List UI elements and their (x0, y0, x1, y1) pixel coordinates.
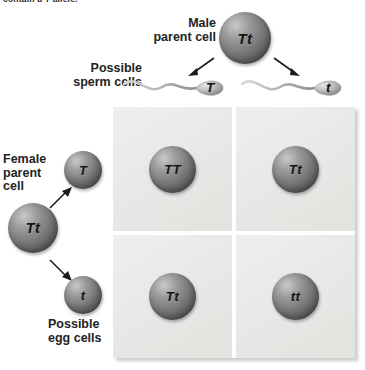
clipped-caption-text: contain a T allele. (3, 0, 183, 4)
offspring-genotype-label: Tt (289, 162, 302, 177)
offspring-cell-TT: TT (149, 146, 196, 193)
possible-egg-cells-label: Possible egg cells (48, 318, 128, 345)
diagram-canvas: contain a T allele. TT Tt Tt tt Male p (0, 0, 365, 370)
male-parent-cell: Tt (219, 12, 271, 64)
offspring-cell-Tt-bottom: Tt (149, 273, 196, 320)
clipped-caption: contain a T allele. (3, 0, 183, 4)
punnett-cell-row0-col1: Tt (236, 107, 355, 231)
punnett-cell-row1-col1: tt (236, 235, 355, 358)
male-parent-genotype-label: Tt (238, 30, 253, 47)
sperm-cell-t: t (240, 70, 348, 106)
offspring-cell-Tt-top: Tt (272, 146, 319, 193)
egg-allele-label: T (79, 163, 87, 178)
egg-cell-t: t (64, 276, 102, 314)
arrow-female-to-egg-T (48, 186, 74, 214)
female-parent-genotype-label: Tt (26, 220, 40, 236)
sperm-allele-label: T (206, 80, 214, 95)
punnett-horizontal-divider (113, 231, 355, 235)
punnett-square: TT Tt Tt tt (113, 107, 355, 358)
punnett-cell-row1-col0: Tt (113, 235, 232, 358)
sperm-allele-label: t (326, 80, 331, 95)
offspring-cell-tt: tt (272, 273, 319, 320)
punnett-cell-row0-col0: TT (113, 107, 232, 231)
offspring-genotype-label: Tt (166, 289, 179, 304)
offspring-genotype-label: TT (164, 162, 181, 177)
offspring-genotype-label: tt (291, 289, 301, 304)
egg-cell-T: T (64, 151, 102, 189)
sperm-cell-T: T (122, 70, 230, 106)
male-parent-cell-label: Male parent cell (152, 17, 216, 44)
egg-allele-label: t (81, 288, 86, 303)
